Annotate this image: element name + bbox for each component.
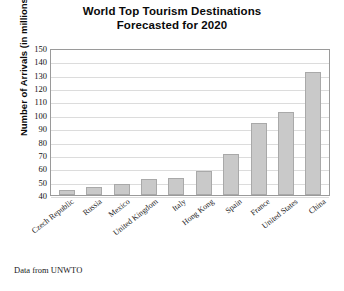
x-tick-label: Spain (224, 197, 244, 215)
plot-area (50, 49, 330, 196)
source-note: Data from UNWTO (14, 265, 82, 275)
bar (59, 190, 75, 195)
y-tick-label: 40 (39, 191, 48, 201)
bar-slot (163, 50, 190, 195)
x-tick-label: Russia (81, 197, 103, 217)
y-tick-label: 70 (39, 151, 48, 161)
chart-title: World Top Tourism Destinations Forecaste… (0, 5, 344, 32)
bar (114, 184, 130, 195)
x-tick-label: Czech Republic (30, 197, 76, 235)
chart-container: World Top Tourism Destinations Forecaste… (0, 0, 344, 291)
x-axis-tick-labels: Czech RepublicRussiaMexicoUnited Kingdom… (50, 197, 330, 257)
y-tick-label: 80 (39, 138, 48, 148)
x-tick-label: Italy (170, 197, 187, 213)
y-tick-label: 130 (34, 71, 47, 81)
bar (168, 178, 184, 195)
y-tick-label: 100 (34, 111, 47, 121)
bar (196, 171, 212, 195)
bar-slot (300, 50, 327, 195)
y-tick-label: 120 (34, 84, 47, 94)
chart-title-line-1: World Top Tourism Destinations (83, 5, 262, 17)
bar (278, 112, 294, 195)
y-tick-label: 90 (39, 124, 48, 134)
x-tick-label: China (307, 197, 328, 216)
x-tick-label: France (249, 197, 272, 217)
bar-slot (217, 50, 244, 195)
y-tick-label: 60 (39, 164, 48, 174)
bar (223, 154, 239, 195)
bar (305, 72, 321, 195)
y-tick-label: 50 (39, 178, 48, 188)
bar-slot (135, 50, 162, 195)
y-tick-label: 110 (35, 97, 47, 107)
bar (86, 187, 102, 195)
bar-slot (53, 50, 80, 195)
bar (141, 179, 157, 195)
bar-series (51, 50, 329, 195)
bar-slot (272, 50, 299, 195)
y-tick-label: 140 (34, 57, 47, 67)
bar-slot (108, 50, 135, 195)
bar-slot (80, 50, 107, 195)
bar-slot (190, 50, 217, 195)
chart-title-line-2: Forecasted for 2020 (0, 19, 344, 33)
bar (251, 123, 267, 195)
y-axis-label: Number of Arrivals (in millions) (18, 0, 29, 141)
bar-slot (245, 50, 272, 195)
y-tick-label: 150 (34, 44, 47, 54)
